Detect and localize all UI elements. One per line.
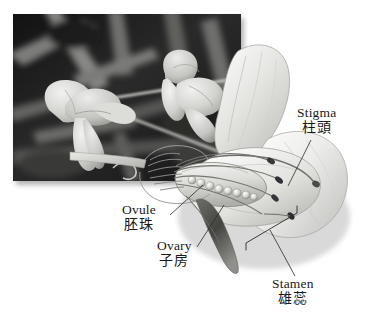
label-stamen: Stamen 雄蕊 xyxy=(272,277,314,306)
label-stamen-zh: 雄蕊 xyxy=(272,291,314,306)
label-ovary: Ovary 子房 xyxy=(157,239,192,268)
label-ovule-zh: 胚珠 xyxy=(122,217,156,232)
label-stigma: Stigma 柱頭 xyxy=(297,106,336,135)
label-ovule-en: Ovule xyxy=(122,203,156,217)
figure-canvas: Stigma 柱頭 Ovule 胚珠 Ovary 子房 Stamen 雄蕊 xyxy=(0,0,365,326)
label-stamen-en: Stamen xyxy=(272,277,314,291)
label-ovary-zh: 子房 xyxy=(157,253,192,268)
flower-stalk xyxy=(70,152,146,168)
label-ovary-en: Ovary xyxy=(157,239,192,253)
label-stigma-zh: 柱頭 xyxy=(297,120,336,135)
label-stigma-en: Stigma xyxy=(297,106,336,120)
label-ovule: Ovule 胚珠 xyxy=(122,203,156,232)
